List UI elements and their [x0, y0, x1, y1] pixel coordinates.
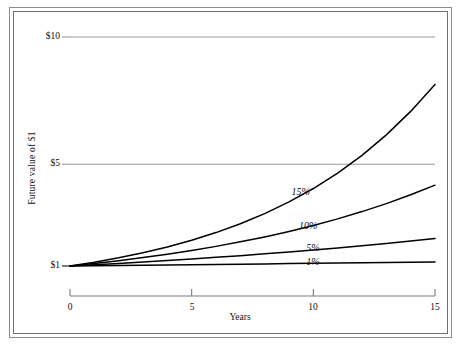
- y-tick-label-5: $5: [32, 158, 60, 168]
- curve-10pct: [70, 185, 435, 266]
- curve-label-15pct: 15%: [292, 186, 310, 197]
- axis-group: [70, 289, 435, 296]
- x-tick-label-5: 5: [182, 302, 202, 312]
- y-axis-title: Future value of $1: [27, 131, 37, 205]
- curve-group: [70, 84, 435, 266]
- chart-plot-area: [0, 0, 462, 347]
- gridline-group: [62, 37, 435, 266]
- x-axis-title: Years: [210, 312, 270, 322]
- curve-label-10pct: 10%: [299, 220, 317, 231]
- y-axis-title-wrap: Future value of $1: [24, 108, 40, 228]
- y-tick-label-1: $1: [32, 260, 60, 270]
- curve-label-5pct: 5%: [306, 242, 319, 253]
- chart-figure: Future value of $1 $10 $5 $1 0 5 10 15 Y…: [0, 0, 462, 347]
- x-tick-label-15: 15: [425, 302, 445, 312]
- x-tick-label-0: 0: [60, 302, 80, 312]
- curve-label-1pct: 1%: [306, 256, 319, 267]
- y-tick-label-10: $10: [32, 31, 60, 41]
- x-tick-label-10: 10: [303, 302, 323, 312]
